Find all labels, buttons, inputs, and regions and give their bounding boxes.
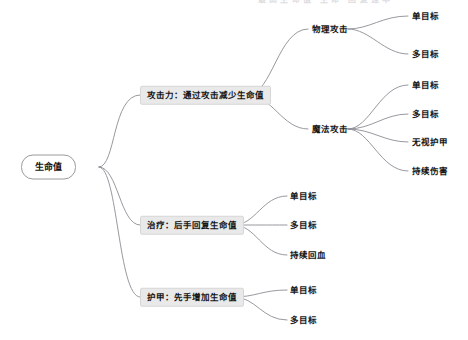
leaf-node-magic-single[interactable]: 单目标 — [411, 79, 440, 92]
leaf-node-magic-ignore-armor-label: 无视护甲 — [412, 137, 448, 147]
edge-root-to-heal — [99, 167, 140, 225]
edge-magic-to-single — [348, 85, 408, 129]
leaf-node-magic-damage-over-time-label: 持续伤害 — [412, 166, 448, 176]
leaf-node-heal-multi-label: 多目标 — [290, 220, 317, 230]
leaf-node-physical-multi-label: 多目标 — [412, 49, 439, 59]
edge-physical-to-single — [348, 16, 408, 29]
edge-magic-to-ignore — [348, 129, 408, 142]
leaf-node-heal-over-time-label: 持续回血 — [290, 250, 326, 260]
leaf-node-magic-multi[interactable]: 多目标 — [411, 108, 440, 121]
mindmap-canvas: 最高生命值 生命 回复速率 — [0, 0, 468, 340]
leaf-node-magic-multi-label: 多目标 — [412, 109, 439, 119]
leaf-node-physical-multi[interactable]: 多目标 — [411, 48, 440, 61]
leaf-node-heal-single-label: 单目标 — [290, 191, 317, 201]
subcategory-node-magic-attack-label: 魔法攻击 — [312, 124, 348, 134]
clipped-top-text-row: 最高生命值 生命 回复速率 — [258, 0, 466, 4]
leaf-node-heal-multi[interactable]: 多目标 — [289, 219, 318, 232]
edge-physical-to-multi — [348, 29, 408, 54]
leaf-node-magic-single-label: 单目标 — [412, 80, 439, 90]
category-node-armor-label: 护甲：先手增加生命值 — [147, 292, 237, 302]
leaf-node-armor-single[interactable]: 单目标 — [289, 284, 318, 297]
leaf-node-magic-ignore-armor[interactable]: 无视护甲 — [411, 136, 449, 149]
edge-root-to-attack — [99, 95, 140, 167]
root-node[interactable]: 生命值 — [21, 155, 76, 180]
edge-root-to-armor — [99, 167, 140, 297]
category-node-heal-label: 治疗：后手回复生命值 — [147, 220, 237, 230]
edge-magic-to-multi — [348, 114, 408, 129]
leaf-node-physical-single[interactable]: 单目标 — [411, 10, 440, 23]
subcategory-node-physical-attack-label: 物理攻击 — [312, 24, 348, 34]
leaf-node-magic-damage-over-time[interactable]: 持续伤害 — [411, 165, 449, 178]
root-node-label: 生命值 — [35, 162, 62, 172]
subcategory-node-magic-attack[interactable]: 魔法攻击 — [311, 123, 349, 136]
edge-magic-to-dot — [348, 129, 408, 171]
category-node-heal[interactable]: 治疗：后手回复生命值 — [140, 216, 244, 235]
leaf-node-armor-multi[interactable]: 多目标 — [289, 314, 318, 327]
clipped-top-text: 最高生命值 生命 回复速率 — [258, 0, 393, 4]
leaf-node-armor-multi-label: 多目标 — [290, 315, 317, 325]
leaf-node-physical-single-label: 单目标 — [412, 11, 439, 21]
leaf-node-heal-single[interactable]: 单目标 — [289, 190, 318, 203]
leaf-node-armor-single-label: 单目标 — [290, 285, 317, 295]
leaf-node-heal-over-time[interactable]: 持续回血 — [289, 249, 327, 262]
subcategory-node-physical-attack[interactable]: 物理攻击 — [311, 23, 349, 36]
category-node-attack-label: 攻击力：通过攻击减少生命值 — [147, 90, 264, 100]
category-node-armor[interactable]: 护甲：先手增加生命值 — [140, 288, 244, 307]
category-node-attack[interactable]: 攻击力：通过攻击减少生命值 — [140, 86, 271, 105]
